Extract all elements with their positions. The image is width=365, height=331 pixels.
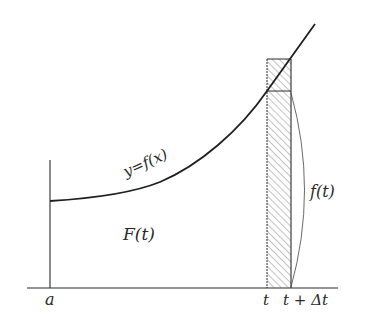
diagram-canvas: y=f(x) F(t) f(t) a t t + Δt <box>0 0 365 331</box>
hatched-strip <box>267 59 291 288</box>
integral-diagram: y=f(x) F(t) f(t) a t t + Δt <box>0 0 365 331</box>
height-brace <box>291 93 305 287</box>
curve-label: y=f(x) <box>119 145 170 181</box>
x-label-t: t <box>263 291 270 309</box>
x-label-t-plus-dt: t + Δt <box>283 291 329 309</box>
x-label-a: a <box>45 290 55 309</box>
height-label: f(t) <box>309 182 335 201</box>
area-label: F(t) <box>122 224 155 244</box>
